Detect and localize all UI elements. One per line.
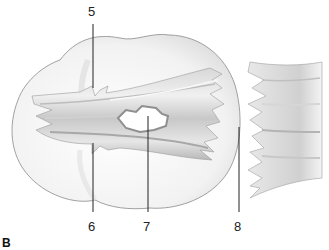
callout-7: 7 xyxy=(143,220,150,233)
callout-5: 5 xyxy=(88,5,95,18)
right-fiber-segment xyxy=(248,62,322,198)
callout-8: 8 xyxy=(234,220,241,233)
panel-label: B xyxy=(2,236,11,250)
callout-6: 6 xyxy=(88,220,95,233)
